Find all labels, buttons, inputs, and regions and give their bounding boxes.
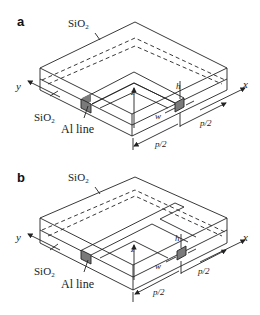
dim-w-label-a: w	[155, 111, 161, 122]
sio2-bottom-sub-b: 2	[51, 271, 55, 279]
axis-z-label-b: z	[131, 244, 135, 255]
sio2-top-label-a: SiO2	[68, 18, 89, 33]
dim-p-right-label-b: p/2	[198, 266, 210, 277]
sio2-bottom-text-b: SiO	[34, 265, 51, 277]
axis-z-label-a: z	[131, 87, 135, 98]
sio2-bottom-label-b: SiO2	[34, 266, 55, 281]
axis-y-label-b: y	[16, 232, 21, 243]
panel-label-a: a	[17, 14, 24, 29]
dim-h-label-a: h	[176, 81, 181, 92]
sio2-bottom-text-a: SiO	[34, 111, 51, 123]
dim-w-label-b: w	[155, 261, 161, 272]
sio2-top-label-b: SiO2	[68, 172, 89, 187]
panel-label-b: b	[17, 170, 25, 185]
dim-p-front-label-a: p/2	[155, 139, 167, 150]
sio2-top-text-a: SiO	[68, 17, 85, 29]
figure: a SiO2 y x z SiO2 Al line h w p/2 p/2 b …	[0, 0, 260, 315]
dim-p-front-label-b: p/2	[153, 287, 165, 298]
axis-x-label-b: x	[243, 232, 248, 243]
al-line-label-a: Al line	[61, 124, 94, 135]
sio2-bottom-sub-a: 2	[51, 117, 55, 125]
sio2-top-sub-a: 2	[85, 23, 89, 31]
dim-p-right-label-a: p/2	[200, 118, 212, 129]
sio2-top-text-b: SiO	[68, 171, 85, 183]
axis-x-label-a: x	[243, 79, 248, 90]
sio2-top-sub-b: 2	[85, 177, 89, 185]
al-line-label-b: Al line	[61, 279, 94, 290]
axis-y-label-a: y	[16, 81, 21, 92]
sio2-bottom-label-a: SiO2	[34, 112, 55, 127]
dim-h-label-b: h	[175, 233, 180, 244]
